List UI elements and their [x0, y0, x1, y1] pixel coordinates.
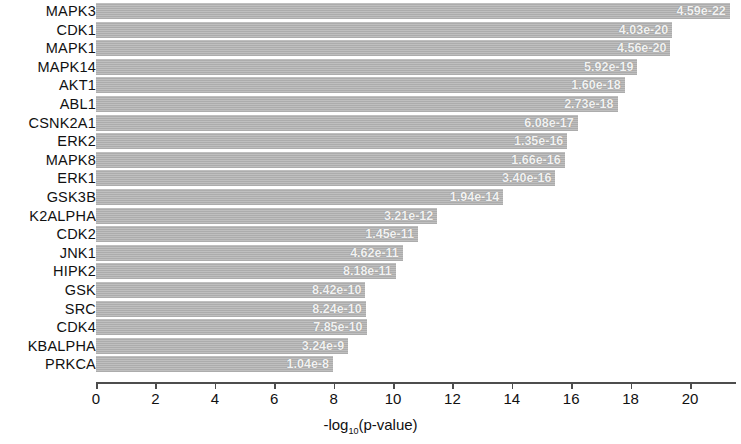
bar-value-label: 1.94e-14 [450, 189, 499, 205]
category-label: AKT1 [0, 76, 96, 94]
bar-row: GSK3B1.94e-14 [0, 188, 741, 206]
bar-value-label: 4.62e-11 [350, 245, 399, 261]
x-axis-tick-label: 4 [195, 390, 235, 407]
x-axis-tick-label: 8 [314, 390, 354, 407]
bar-container: 4.59e-22 [96, 3, 730, 19]
category-label: JNK1 [0, 244, 96, 262]
bar-container: 1.66e-16 [96, 152, 565, 168]
category-label: ERK1 [0, 169, 96, 187]
bar-row: KBALPHA3.24e-9 [0, 337, 741, 355]
x-axis-tick [690, 382, 692, 389]
x-axis-tick-label: 18 [611, 390, 651, 407]
bar-value-label: 4.03e-20 [619, 22, 668, 38]
category-label: SRC [0, 300, 96, 318]
bar-value-label: 8.24e-10 [312, 301, 361, 317]
bar: 3.21e-12 [96, 208, 437, 224]
bar-container: 3.21e-12 [96, 208, 437, 224]
bar-container: 3.24e-9 [96, 338, 348, 354]
bar-value-label: 7.85e-10 [313, 319, 362, 335]
bar-value-label: 1.66e-16 [511, 152, 560, 168]
bar-row: CDK21.45e-11 [0, 225, 741, 243]
bar-row: JNK14.62e-11 [0, 244, 741, 262]
x-axis-tick [215, 382, 217, 389]
bar-container: 8.24e-10 [96, 301, 366, 317]
bar-row: HIPK28.18e-11 [0, 262, 741, 280]
bar: 8.42e-10 [96, 282, 365, 298]
bar-row: MAPK81.66e-16 [0, 151, 741, 169]
x-axis-tick-label: 16 [551, 390, 591, 407]
x-axis-tick [274, 382, 276, 389]
category-label: MAPK3 [0, 2, 96, 20]
x-axis-tick [571, 382, 573, 389]
plot-area: MAPK34.59e-22CDK14.03e-20MAPK14.56e-20MA… [0, 0, 741, 380]
bar: 7.85e-10 [96, 319, 367, 335]
bar-value-label: 5.92e-19 [584, 59, 633, 75]
x-axis-tick [512, 382, 514, 389]
category-label: PRKCA [0, 355, 96, 373]
bar-value-label: 8.42e-10 [312, 282, 361, 298]
bar-value-label: 3.40e-16 [502, 170, 551, 186]
bar: 4.62e-11 [96, 245, 403, 261]
category-label: K2ALPHA [0, 207, 96, 225]
bar-container: 1.04e-8 [96, 356, 333, 372]
bar-container: 8.18e-11 [96, 263, 396, 279]
category-label: ABL1 [0, 95, 96, 113]
bar-container: 4.03e-20 [96, 22, 672, 38]
x-axis-title: -log10(p-value) [0, 416, 741, 436]
category-label: GSK [0, 281, 96, 299]
category-label: CDK1 [0, 21, 96, 39]
bar-value-label: 3.21e-12 [384, 208, 433, 224]
x-axis-tick-label: 2 [135, 390, 175, 407]
bar: 1.35e-16 [96, 133, 567, 149]
bar-value-label: 2.73e-18 [564, 96, 613, 112]
x-axis-line-extension [690, 382, 736, 384]
category-label: MAPK1 [0, 39, 96, 57]
x-axis-tick [393, 382, 395, 389]
category-label: KBALPHA [0, 337, 96, 355]
bar: 3.24e-9 [96, 338, 348, 354]
bar-row: CDK47.85e-10 [0, 318, 741, 336]
bar: 8.24e-10 [96, 301, 366, 317]
x-axis-tick-label: 10 [373, 390, 413, 407]
bar-container: 3.40e-16 [96, 170, 555, 186]
x-axis-tick-label: 12 [432, 390, 472, 407]
bar-container: 1.94e-14 [96, 189, 503, 205]
x-axis-tick [334, 382, 336, 389]
x-axis-title-subscript: 10 [348, 426, 358, 436]
category-label: CDK4 [0, 318, 96, 336]
x-axis-tick-label: 0 [76, 390, 116, 407]
bar: 4.59e-22 [96, 3, 730, 19]
bar-container: 5.92e-19 [96, 59, 637, 75]
bar-row: CDK14.03e-20 [0, 21, 741, 39]
bar-row: MAPK145.92e-19 [0, 58, 741, 76]
bar-value-label: 8.18e-11 [343, 263, 392, 279]
bar-row: MAPK34.59e-22 [0, 2, 741, 20]
bar-container: 6.08e-17 [96, 115, 578, 131]
x-axis-tick [155, 382, 157, 389]
bar: 1.45e-11 [96, 226, 418, 242]
bar-container: 1.60e-18 [96, 77, 625, 93]
bar: 4.03e-20 [96, 22, 672, 38]
bar: 1.94e-14 [96, 189, 503, 205]
category-label: GSK3B [0, 188, 96, 206]
bar-value-label: 1.35e-16 [514, 133, 563, 149]
bar: 4.56e-20 [96, 40, 670, 56]
bar-row: GSK8.42e-10 [0, 281, 741, 299]
bar-value-label: 1.60e-18 [571, 77, 620, 93]
x-axis-tick-label: 6 [254, 390, 294, 407]
bar-container: 4.56e-20 [96, 40, 670, 56]
category-label: MAPK14 [0, 58, 96, 76]
bar: 8.18e-11 [96, 263, 396, 279]
bar-row: MAPK14.56e-20 [0, 39, 741, 57]
x-axis-tick-label: 20 [670, 390, 710, 407]
kinase-enrichment-bar-chart: MAPK34.59e-22CDK14.03e-20MAPK14.56e-20MA… [0, 0, 741, 444]
bar: 3.40e-16 [96, 170, 555, 186]
bar-value-label: 4.59e-22 [676, 3, 725, 19]
bar-row: ABL12.73e-18 [0, 95, 741, 113]
category-label: MAPK8 [0, 151, 96, 169]
x-axis-tick [452, 382, 454, 389]
x-axis-tick-label: 14 [492, 390, 532, 407]
bar-value-label: 1.04e-8 [287, 356, 329, 372]
bar-row: ERK21.35e-16 [0, 132, 741, 150]
bar-row: CSNK2A16.08e-17 [0, 114, 741, 132]
